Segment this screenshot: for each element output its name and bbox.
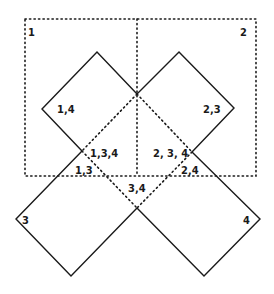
dotted-edge-lr xyxy=(137,152,192,208)
label-region-1: 1 xyxy=(28,26,35,39)
label-region-3: 3 xyxy=(22,214,29,227)
label-region-4: 4 xyxy=(243,214,250,227)
dotted-edge-ul xyxy=(82,94,137,151)
label-region-1-3: 1,3 xyxy=(75,164,93,177)
square-upper-right-solid xyxy=(137,52,234,152)
label-region-2-4: 2,4 xyxy=(181,164,199,177)
label-region-2-3: 2,3 xyxy=(203,103,221,116)
label-region-1-4: 1,4 xyxy=(57,103,75,116)
square-upper-left-solid xyxy=(42,52,137,151)
label-region-3-4: 3,4 xyxy=(128,182,146,195)
label-region-2-3-4: 2, 3, 4 xyxy=(153,147,188,160)
label-region-2: 2 xyxy=(240,26,247,39)
dotted-edge-ur xyxy=(137,94,192,152)
venn-squares-diagram: 1 2 1,4 2,3 1,3,4 2, 3, 4 1,3 2,4 3,4 3 … xyxy=(0,0,274,294)
label-region-1-3-4: 1,3,4 xyxy=(90,147,118,160)
